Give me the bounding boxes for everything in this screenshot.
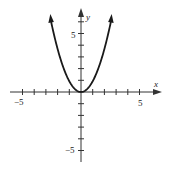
y-tick-label-5: 5 (71, 30, 76, 40)
x-tick-label-neg5: −5 (14, 97, 24, 107)
x-axis-label: x (153, 79, 158, 89)
parabola-chart: x y −5 5 5 −5 (0, 0, 172, 170)
x-tick-label-5: 5 (138, 98, 143, 108)
y-tick-label-neg5: −5 (65, 145, 75, 155)
y-axis (78, 8, 84, 162)
y-axis-label: y (85, 12, 90, 22)
